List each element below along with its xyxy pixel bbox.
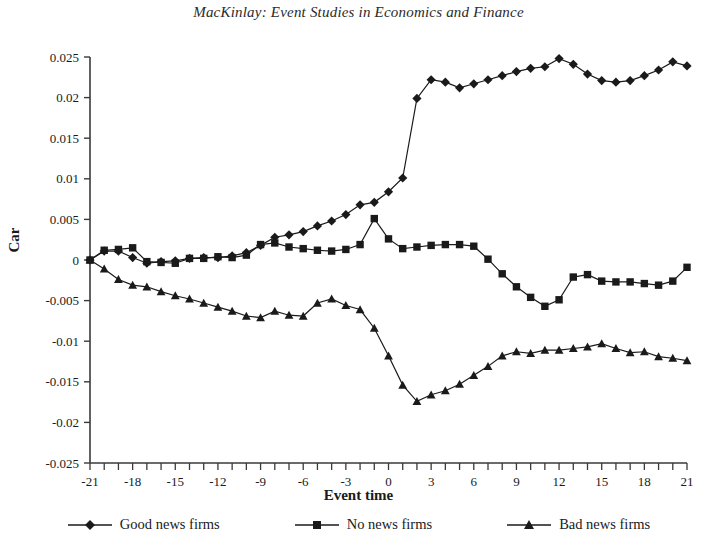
legend-item-bad-news[interactable]: Bad news firms — [506, 516, 650, 533]
data-point — [470, 242, 477, 249]
data-point — [427, 75, 436, 84]
data-point — [512, 347, 521, 355]
data-point — [356, 241, 363, 248]
data-point — [612, 344, 621, 352]
y-axis-title: Car — [6, 229, 23, 253]
data-point — [214, 253, 221, 260]
y-axis: 0.0250.020.0150.010.0050-0.005-0.01-0.01… — [45, 50, 90, 471]
data-point — [313, 221, 322, 230]
data-point — [541, 303, 548, 310]
data-point — [456, 241, 463, 248]
data-point — [597, 339, 606, 347]
legend-item-no-news[interactable]: No news firms — [294, 516, 432, 533]
data-point — [469, 79, 478, 88]
data-point — [370, 198, 379, 207]
data-point — [498, 71, 507, 80]
y-tick-label: 0 — [73, 253, 80, 268]
data-point — [540, 62, 549, 71]
data-point — [371, 215, 378, 222]
data-point — [640, 71, 649, 80]
data-point — [157, 287, 166, 295]
legend-item-good-news[interactable]: Good news firms — [67, 516, 220, 533]
data-point — [384, 351, 393, 359]
legend-triangle-icon — [506, 518, 552, 532]
data-point — [228, 254, 235, 261]
data-point — [412, 94, 421, 103]
data-point — [455, 83, 464, 92]
data-point — [641, 280, 648, 287]
data-point — [512, 67, 521, 76]
data-point — [341, 210, 350, 219]
data-point — [115, 246, 122, 253]
chart-page: MacKinlay: Event Studies in Economics an… — [0, 0, 717, 540]
x-axis: -21-18-15-12-9-6-3036912151821 — [81, 463, 693, 489]
data-point — [101, 247, 108, 254]
legend-diamond-icon — [67, 518, 113, 532]
y-tick-label: -0.02 — [52, 415, 79, 430]
data-point — [299, 227, 308, 236]
legend-label-good-news: Good news firms — [120, 516, 220, 533]
data-point — [427, 242, 434, 249]
data-point — [399, 245, 406, 252]
data-point — [200, 255, 207, 262]
data-point — [598, 277, 605, 284]
data-point — [270, 307, 279, 315]
data-point — [284, 230, 293, 239]
data-point — [328, 247, 335, 254]
y-tick-label: -0.015 — [45, 374, 79, 389]
data-point — [654, 352, 663, 360]
x-axis-title: Event time — [0, 487, 717, 504]
data-point — [484, 255, 491, 262]
y-tick-label: 0.025 — [50, 50, 79, 65]
data-point — [683, 264, 690, 271]
data-point — [526, 64, 535, 73]
data-point — [242, 312, 251, 320]
chart-legend: Good news firms No news firms Bad news f… — [0, 516, 717, 533]
legend-label-no-news: No news firms — [347, 516, 432, 533]
data-point — [186, 255, 193, 262]
legend-label-bad-news: Bad news firms — [559, 516, 650, 533]
data-point — [682, 61, 691, 70]
data-point — [570, 273, 577, 280]
chart-plot-area: 0.0250.020.0150.010.0050-0.005-0.01-0.01… — [0, 0, 717, 540]
data-point — [513, 283, 520, 290]
data-point — [271, 239, 278, 246]
data-point — [441, 78, 450, 87]
data-point — [597, 76, 606, 85]
data-point — [499, 270, 506, 277]
legend-square-icon — [294, 518, 340, 532]
data-point — [527, 294, 534, 301]
data-point — [385, 235, 392, 242]
data-point — [128, 281, 137, 289]
data-point — [626, 278, 633, 285]
data-point — [327, 216, 336, 225]
data-point — [300, 245, 307, 252]
y-tick-label: -0.01 — [52, 334, 79, 349]
data-point — [243, 251, 250, 258]
data-point — [469, 371, 478, 379]
data-point — [583, 69, 592, 78]
data-series-group — [85, 54, 691, 405]
data-point — [669, 277, 676, 284]
data-point — [172, 260, 179, 267]
data-point — [554, 54, 563, 63]
data-point — [327, 295, 336, 303]
data-point — [584, 271, 591, 278]
y-tick-label: 0.015 — [50, 131, 79, 146]
data-point — [413, 243, 420, 250]
data-point — [285, 243, 292, 250]
y-tick-label: 0.02 — [56, 90, 79, 105]
data-point — [441, 386, 450, 394]
y-tick-label: -0.005 — [45, 293, 79, 308]
data-point — [143, 258, 150, 265]
data-point — [157, 259, 164, 266]
data-point — [569, 60, 578, 69]
data-point — [342, 246, 349, 253]
data-point — [483, 75, 492, 84]
data-point — [654, 65, 663, 74]
y-tick-label: -0.025 — [45, 456, 79, 471]
y-tick-label: 0.005 — [50, 212, 79, 227]
data-point — [257, 241, 264, 248]
y-tick-label: 0.01 — [56, 171, 79, 186]
data-point — [484, 362, 493, 370]
